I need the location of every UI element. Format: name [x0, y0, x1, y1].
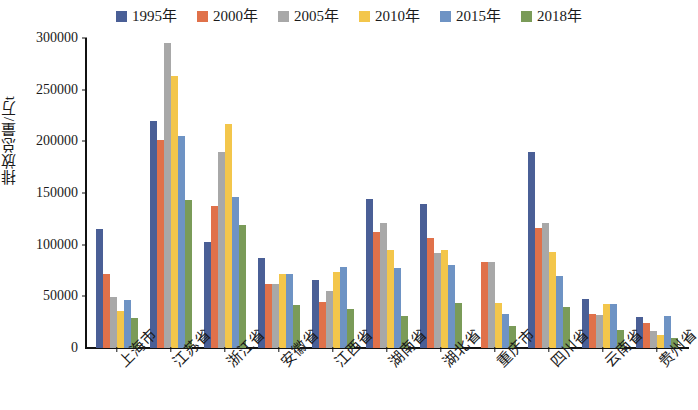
bar: [549, 252, 556, 348]
bar: [441, 250, 448, 348]
bar-group: [468, 38, 522, 348]
bar-group: [522, 38, 576, 348]
bar-group: [252, 38, 306, 348]
x-axis-labels: 上海市江苏省浙江省安徽省江西省湖南省湖北省重庆市四川省云南省贵州省: [86, 352, 688, 410]
bar-group: [360, 38, 414, 348]
x-axis-label-cell: 安徽省: [252, 352, 306, 410]
bar-group: [414, 38, 468, 348]
bar: [495, 303, 502, 348]
bar: [211, 206, 218, 348]
bar: [535, 228, 542, 348]
bar: [528, 152, 535, 348]
bar: [333, 272, 340, 348]
plot-area: 300000250000200000150000100000500000 上海市…: [0, 0, 698, 410]
x-axis-label-cell: 浙江省: [198, 352, 252, 410]
x-axis-label-cell: 湖南省: [360, 352, 414, 410]
x-axis-label-cell: 四川省: [522, 352, 576, 410]
bar: [488, 262, 495, 348]
bar: [373, 232, 380, 348]
bar: [434, 253, 441, 348]
bar: [96, 229, 103, 348]
bar: [319, 302, 326, 349]
bar: [596, 315, 603, 348]
bar: [340, 267, 347, 348]
bar: [157, 140, 164, 348]
bar-group: [90, 38, 144, 348]
bar: [542, 223, 549, 348]
bar-group: [576, 38, 630, 348]
bar: [171, 76, 178, 348]
bar: [286, 274, 293, 348]
bar: [225, 124, 232, 348]
bar: [589, 314, 596, 348]
bar: [387, 250, 394, 348]
x-axis-label-cell: 贵州省: [630, 352, 684, 410]
bar: [164, 43, 171, 348]
bar-groups: [86, 38, 688, 348]
bar: [150, 121, 157, 348]
y-axis-tick-label: 50000: [43, 288, 78, 304]
x-axis-label-cell: 重庆市: [468, 352, 522, 410]
x-axis-label-cell: 江苏省: [144, 352, 198, 410]
bar: [420, 204, 427, 348]
bar: [272, 284, 279, 348]
bar: [103, 274, 110, 348]
bar: [394, 268, 401, 348]
y-axis-tick-label: 250000: [36, 82, 78, 98]
bar-group: [630, 38, 684, 348]
x-axis-label-cell: 上海市: [90, 352, 144, 410]
x-axis-label-cell: 江西省: [306, 352, 360, 410]
x-axis-label-cell: 云南省: [576, 352, 630, 410]
bar: [117, 311, 124, 348]
bar: [380, 223, 387, 348]
bar: [326, 291, 333, 348]
bar: [185, 200, 192, 348]
bar: [178, 136, 185, 348]
bar: [279, 274, 286, 348]
y-axis-tick-label: 300000: [36, 30, 78, 46]
bar: [232, 197, 239, 348]
bar-group: [306, 38, 360, 348]
y-axis-tick-label: 0: [71, 340, 78, 356]
bar: [218, 152, 225, 348]
bar: [650, 331, 657, 348]
bar: [110, 297, 117, 348]
bar: [239, 225, 246, 348]
bar: [427, 238, 434, 348]
bar-group: [144, 38, 198, 348]
x-axis-label-cell: 湖北省: [414, 352, 468, 410]
emissions-bar-chart: 1995年2000年2005年2010年2015年2018年 排放总量/万t 3…: [0, 0, 698, 410]
y-axis-tick-label: 150000: [36, 185, 78, 201]
y-axis-ticks: 300000250000200000150000100000500000: [24, 30, 82, 350]
bar: [366, 199, 373, 348]
y-axis-tick-label: 100000: [36, 237, 78, 253]
y-axis-tick-label: 200000: [36, 133, 78, 149]
bar-group: [198, 38, 252, 348]
bar: [448, 265, 455, 348]
bar: [603, 304, 610, 348]
